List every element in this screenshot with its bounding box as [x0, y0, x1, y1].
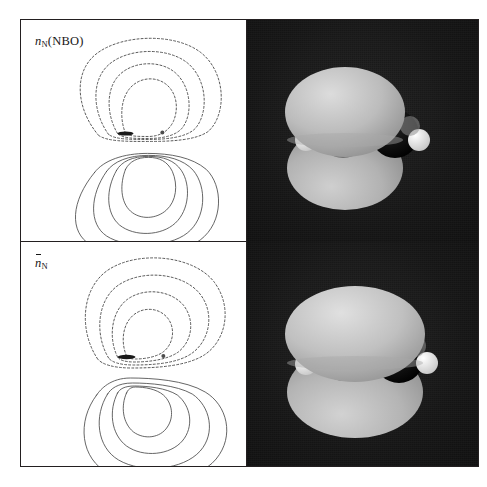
orbital-render-nbar — [247, 242, 478, 466]
negative-contours-nbo — [80, 38, 221, 141]
nuclei-nbo — [118, 131, 165, 136]
figure-frame: nN(NBO) — [20, 19, 479, 467]
negative-contours-nbar — [85, 258, 225, 368]
render-panel-nbo — [247, 20, 478, 242]
contour-plot-nbo — [21, 20, 246, 241]
positive-contours-nbo — [75, 153, 218, 241]
contour-panel-nbo: nN(NBO) — [21, 20, 247, 242]
positive-contours-nbar — [84, 378, 227, 466]
contour-plot-nbar — [21, 242, 246, 466]
molecular-orbital-figure: nN(NBO) — [0, 0, 487, 487]
render-panel-nbar — [247, 242, 478, 466]
contour-panel-nbar: nN — [21, 242, 247, 466]
orbital-render-nbo — [247, 20, 478, 242]
